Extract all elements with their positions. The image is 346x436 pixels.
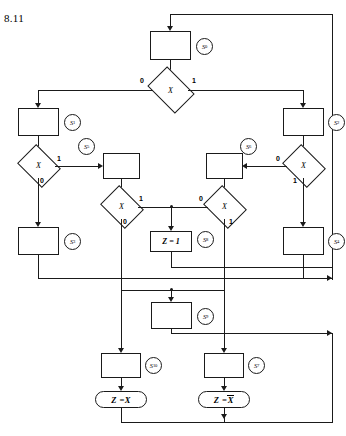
decision-d0: X bbox=[152, 77, 189, 103]
d4-zero-to-merge bbox=[172, 207, 208, 208]
d2-branch-1: 1 bbox=[293, 177, 297, 184]
arrow-bottom-merge bbox=[221, 414, 227, 419]
state-box-s10 bbox=[101, 353, 141, 378]
d2-left-branch bbox=[244, 166, 287, 167]
output-zxbar-text: Z = bbox=[214, 395, 227, 405]
d4-branch-1: 1 bbox=[229, 218, 233, 225]
output-box-s8: Z = 1 bbox=[150, 231, 192, 252]
d1-branch-0: 0 bbox=[40, 177, 44, 184]
decision-d3: X bbox=[105, 194, 138, 219]
output-zxbar-var: X bbox=[227, 395, 234, 405]
output-zx-var: X bbox=[125, 395, 131, 405]
d3-branch-0: 0 bbox=[123, 218, 127, 225]
d4-one-run bbox=[171, 290, 225, 291]
d1-right-branch bbox=[55, 166, 101, 167]
decision-d1-var: X bbox=[22, 153, 55, 178]
state-label-s2: S2 bbox=[328, 114, 345, 131]
s3-return-run bbox=[38, 278, 332, 279]
state-box-s0 bbox=[150, 31, 191, 60]
state-box-s6 bbox=[206, 153, 243, 179]
s9-return-run bbox=[171, 333, 332, 334]
asm-chart-figure: 8.11 S0 X 0 1 S1 S2 X 1 0 bbox=[0, 0, 346, 436]
bottom-return-rail bbox=[332, 333, 333, 423]
d0-right-branch bbox=[188, 90, 304, 91]
d4-branch-0: 0 bbox=[199, 195, 203, 202]
state-label-s3: S3 bbox=[64, 233, 81, 250]
d2-one-drop bbox=[303, 178, 304, 225]
right-to-s7-drop bbox=[224, 290, 225, 351]
state-label-s5: S5 bbox=[78, 138, 95, 155]
state-box-s1 bbox=[18, 108, 59, 136]
d0-branch-0: 0 bbox=[140, 77, 144, 84]
state-label-s9: S9 bbox=[197, 308, 214, 325]
feedback-top-horizontal bbox=[170, 14, 333, 15]
output-zx-text: Z = bbox=[111, 395, 124, 405]
decision-d1: X bbox=[22, 153, 55, 178]
bottom-return-run bbox=[121, 422, 332, 423]
figure-number: 8.11 bbox=[4, 12, 24, 24]
state-label-s10: S10 bbox=[145, 357, 162, 374]
d4-one-drop bbox=[224, 219, 225, 291]
d3-one-to-merge bbox=[138, 207, 172, 208]
output-oval-z-eq-xbar: Z = X bbox=[198, 391, 250, 408]
state-box-s4 bbox=[283, 227, 324, 255]
s8-exit-drop bbox=[171, 252, 172, 268]
s8-return-run bbox=[171, 267, 332, 268]
d0-branch-1: 1 bbox=[192, 77, 196, 84]
decision-d4: X bbox=[208, 194, 241, 219]
decision-d3-var: X bbox=[105, 194, 138, 219]
state-box-s9 bbox=[151, 302, 192, 329]
state-label-s0: S0 bbox=[196, 38, 213, 55]
state-label-s7: S7 bbox=[248, 357, 265, 374]
state-box-s5 bbox=[103, 153, 140, 179]
decision-d4-var: X bbox=[208, 194, 241, 219]
d1-zero-drop bbox=[38, 178, 39, 225]
d0-left-branch bbox=[38, 90, 153, 91]
left-to-s10-drop bbox=[121, 290, 122, 351]
d1-branch-1: 1 bbox=[57, 155, 61, 162]
output-oval-z-eq-x: Z = X bbox=[95, 391, 147, 408]
d3-branch-1: 1 bbox=[139, 195, 143, 202]
d3-zero-run bbox=[121, 290, 171, 291]
state-box-s2 bbox=[283, 108, 324, 136]
decision-d2-var: X bbox=[287, 153, 320, 178]
state-label-s1: S1 bbox=[64, 114, 81, 131]
d2-branch-0: 0 bbox=[276, 155, 280, 162]
state-label-s6: S6 bbox=[240, 138, 257, 155]
d3-zero-drop bbox=[121, 219, 122, 291]
state-box-s7 bbox=[204, 353, 244, 378]
state-box-s3 bbox=[18, 227, 59, 255]
decision-d2: X bbox=[287, 153, 320, 178]
s3-exit-drop bbox=[38, 255, 39, 279]
decision-d0-var: X bbox=[152, 77, 189, 103]
arrow-s3-return bbox=[327, 275, 332, 281]
zx-exit-drop bbox=[121, 408, 122, 423]
state-label-s8: S8 bbox=[197, 231, 214, 248]
state-label-s4: S4 bbox=[328, 233, 345, 250]
